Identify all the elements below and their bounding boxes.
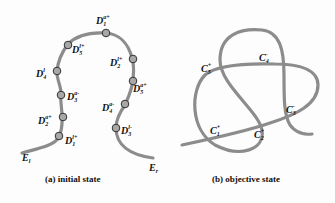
diagram-canvas [0, 0, 335, 203]
label-D3l-: D3l- [121, 124, 132, 137]
label-D5a+: D5a+ [133, 82, 147, 95]
caption-objective-state: (b) objective state [212, 174, 280, 184]
label-D5l+: D5l+ [72, 43, 84, 56]
label-C3-: C3- [286, 103, 295, 116]
rope-initial [22, 33, 153, 158]
label-D2a+: D2a+ [38, 114, 52, 127]
rope-knot [182, 30, 318, 152]
label-Er: Er [149, 161, 155, 174]
label-C5+: C5+ [201, 62, 211, 75]
label-C2+: C2+ [254, 128, 264, 141]
label-C1+: C1+ [210, 124, 220, 137]
label-El: El [22, 151, 27, 164]
caption-initial-state: (a) initial state [45, 174, 101, 184]
label-D2l+: D2l+ [110, 56, 122, 69]
label-D1l+: D1l+ [65, 134, 77, 147]
label-D3a-: D3a- [67, 90, 79, 103]
label-D4a-: D4a- [102, 101, 114, 114]
label-D1a+: D1a+ [96, 14, 110, 27]
label-D4l: D4l [36, 67, 45, 80]
label-C4-: C4- [259, 51, 268, 64]
